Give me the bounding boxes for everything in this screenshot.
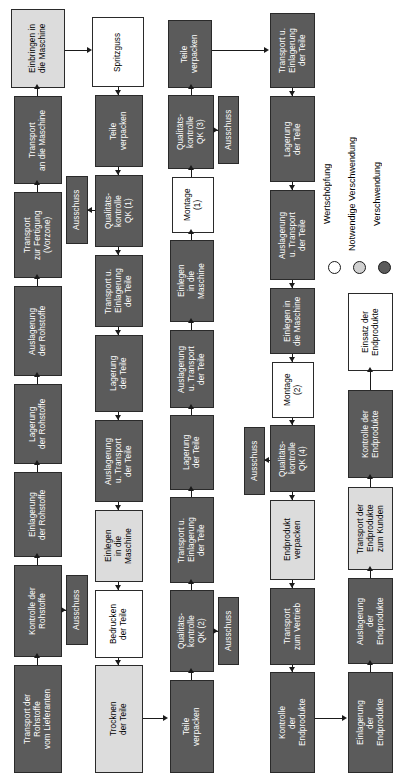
arrow-c3-c4 <box>264 47 269 53</box>
arrow-c4-1 <box>289 91 295 96</box>
node-teile-verpacken-c2[interactable]: Teile verpacken <box>95 95 143 167</box>
node-bedrucken-der-teile[interactable]: Bedrucken der Teile <box>95 590 143 658</box>
node-kontrolle-der-rohstoffe[interactable]: Kontrolle der Rohstoffe <box>14 565 62 657</box>
node-lagerung-der-rohstoffe[interactable]: Lagerung der Rohstoffe <box>14 384 62 464</box>
arrow-c4-3 <box>289 283 295 288</box>
node-montage-1[interactable]: Montage (1) <box>172 177 214 233</box>
legend-swatch-wertschoepfung-icon <box>328 261 341 274</box>
node-qualitaetskontrolle-qk3[interactable]: Qualitäts- kontrolle QK (3) <box>168 95 214 169</box>
node-ausschuss-qk1[interactable]: Ausschuss <box>66 176 88 244</box>
node-transport-zum-vertrieb[interactable]: Transport zum Vertrieb <box>270 588 315 665</box>
arrow-c1-3 <box>34 460 40 465</box>
arrow-c1-6 <box>34 180 40 185</box>
node-kontrolle-der-endprodukte-c5[interactable]: Kontrolle der Endprodukte <box>348 390 393 478</box>
arrow-c2-ausschuss <box>87 207 92 213</box>
node-einsatz-der-endprodukte[interactable]: Einsatz der Endprodukte <box>348 293 393 371</box>
arrow-c3-7 <box>188 165 194 170</box>
node-ausschuss-qk4[interactable]: Ausschuss <box>244 427 265 495</box>
node-transport-rohstoffe-vom-lieferanten[interactable]: Transport der Rohstoffe vom Lieferanten <box>14 665 62 773</box>
node-einlegen-in-die-maschine-c3[interactable]: Einlegen in die Maschine <box>170 240 214 322</box>
connector-c1-7 <box>37 88 38 96</box>
node-teile-verpacken-c3-top[interactable]: Teile verpacken <box>168 20 212 88</box>
arrow-c3-2 <box>188 579 194 584</box>
arrow-c4-5 <box>289 420 295 425</box>
arrow-c4-ausschuss <box>264 457 269 463</box>
node-auslagerung-u-transport-der-teile-c2[interactable]: Auslagerung u. Transport der Teile <box>95 420 143 502</box>
legend-label-wertschoepfung: Wertschöpfung <box>322 134 348 254</box>
node-ausschuss-qk2[interactable]: Ausschuss <box>218 597 239 665</box>
node-transport-u-einlagerung-der-teile-c4[interactable]: Transport u. Einlagerung der Teile <box>270 13 315 88</box>
arrow-c2-1 <box>115 90 121 95</box>
arrow-c1-ausschuss <box>61 607 66 613</box>
node-ausschuss-qk3[interactable]: Ausschuss <box>218 96 239 164</box>
node-lagerung-der-teile-c4[interactable]: Lagerung der Teile <box>270 96 315 182</box>
connector-c3-7 <box>191 169 192 177</box>
legend-item-notwendige-verschwendung: Notwendige Verschwendung <box>347 130 373 280</box>
arrow-c1-1 <box>34 653 40 658</box>
node-auslagerung-u-transport-der-teile-c3[interactable]: Auslagerung u. Transport der Teile <box>170 330 214 408</box>
connector-c1-1 <box>37 657 38 665</box>
node-auslagerung-der-endprodukte[interactable]: Auslagerung der Endprodukte <box>348 578 393 664</box>
arrow-c5-3 <box>367 474 373 479</box>
arrow-c4-7 <box>289 583 295 588</box>
arrow-c2-2 <box>115 170 121 175</box>
connector-trocknen-teileverpacken <box>143 718 165 719</box>
node-einlegen-in-die-maschine-c2[interactable]: Einlegen in die Maschine <box>95 510 143 582</box>
flowchart-canvas: Transport der Rohstoffe vom Lieferanten … <box>0 0 403 780</box>
connector-c1-5 <box>37 278 38 286</box>
node-qualitaetskontrolle-qk4[interactable]: Qualitäts- kontrolle QK (4) <box>270 425 315 492</box>
connector-c3-6 <box>191 233 192 240</box>
connector-c3-4 <box>191 408 192 415</box>
arrow-c3-3 <box>188 486 194 491</box>
legend-label-verschwendung: Verschwendung <box>372 134 398 254</box>
node-auslagerung-der-rohstoffe[interactable]: Auslagerung der Rohstoffe <box>14 286 62 376</box>
node-einlagerung-der-endprodukte[interactable]: Einlagerung der Endprodukte <box>348 672 393 773</box>
node-kontrolle-der-endprodukte-c4[interactable]: Kontrolle der Endprodukte <box>270 672 315 773</box>
node-transport-u-einlagerung-der-teile-c3[interactable]: Transport u. Einlagerung der Teile <box>170 497 214 583</box>
arrow-c4-6 <box>289 495 295 500</box>
node-ausschuss-rohstoffkontrolle[interactable]: Ausschuss <box>66 575 88 645</box>
node-einbringen-in-die-maschine[interactable]: Einbringen in die Maschine <box>11 9 65 88</box>
node-trocknen-der-teile[interactable]: Trocknen der Teile <box>95 665 143 773</box>
arrow-c4-4 <box>289 357 295 362</box>
legend-swatch-verschwendung-icon <box>378 261 391 274</box>
arrow-c5-1 <box>367 660 373 665</box>
arrow-trocknen-teileverpacken <box>163 715 168 721</box>
node-endprodukt-verpacken[interactable]: Endprodukt verpacken <box>270 500 315 580</box>
node-auslagerung-u-transport-der-teile-c4[interactable]: Auslagerung u. Transport der Teile <box>270 190 315 280</box>
connector-c5-3 <box>370 478 371 487</box>
arrow-c4-2 <box>289 185 295 190</box>
connector-c1-6 <box>37 184 38 192</box>
connector-c1-4 <box>37 376 38 384</box>
connector-c5-2 <box>370 570 371 578</box>
arrow-einbringen-spritzguss <box>87 47 92 53</box>
node-einlegen-in-die-maschine-c4[interactable]: Einlegen in die Maschine <box>270 288 315 354</box>
arrow-c4-c5 <box>342 715 347 721</box>
node-spritzguss[interactable]: Spritzguss <box>92 17 144 87</box>
arrow-c2-4 <box>115 330 121 335</box>
connector-c4-c5 <box>315 718 344 719</box>
connector-c1-3 <box>37 464 38 472</box>
connector-c3-3 <box>191 490 192 497</box>
node-teile-verpacken-c3[interactable]: Teile verpacken <box>170 680 214 773</box>
arrow-c3-4 <box>188 404 194 409</box>
arrow-c2-6 <box>115 505 121 510</box>
legend-label-notwendige-verschwendung: Notwendige Verschwendung <box>347 134 373 254</box>
node-transport-an-die-maschine[interactable]: Transport an die Maschine <box>14 96 62 184</box>
legend-swatch-notwendige-verschwendung-icon <box>353 261 366 274</box>
connector-c3-c4 <box>212 50 266 51</box>
node-lagerung-der-teile-c2[interactable]: Lagerung der Teile <box>95 335 143 412</box>
node-montage-2[interactable]: Montage (2) <box>272 362 314 418</box>
node-qualitaetskontrolle-qk2[interactable]: Qualitäts- kontrolle QK (2) <box>170 590 214 672</box>
node-qualitaetskontrolle-qk1[interactable]: Qualitäts- kontrolle QK (1) <box>95 175 143 247</box>
connector-c3-1 <box>191 672 192 680</box>
node-transport-der-endprodukte-zum-kunden[interactable]: Transport der Endprodukte zum Kunden <box>348 487 393 570</box>
legend-item-verschwendung: Verschwendung <box>372 130 398 280</box>
node-transport-u-einlagerung-der-teile-c2[interactable]: Transport u. Einlagerung der Teile <box>95 255 143 327</box>
arrow-c2-5 <box>115 415 121 420</box>
arrow-c1-5 <box>34 274 40 279</box>
node-einlagerung-der-rohstoffe[interactable]: Einlagerung der Rohstoffe <box>14 472 62 557</box>
node-transport-zur-fertigung-vorzone[interactable]: Transport zur Fertigung (Vorzone) <box>14 192 62 278</box>
arrow-c3-ausschuss-qk3 <box>213 127 218 133</box>
node-lagerung-der-teile-c3[interactable]: Lagerung der Teile <box>170 415 214 490</box>
